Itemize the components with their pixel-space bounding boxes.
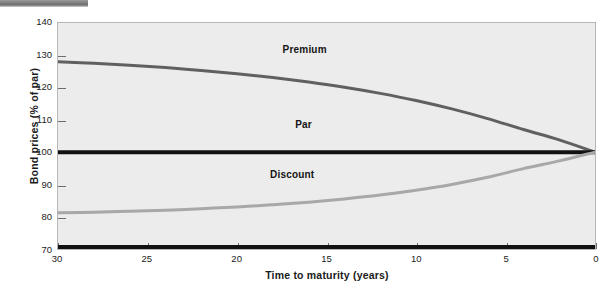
y-tick-label: 110 (26, 114, 52, 125)
y-tick-label: 100 (26, 146, 52, 157)
series-line-discount (58, 152, 595, 213)
x-axis-title: Time to maturity (years) (57, 269, 597, 281)
y-tick-label: 140 (26, 16, 52, 27)
x-tick-label: 15 (312, 253, 342, 264)
header-rule (0, 0, 88, 7)
x-tick-mark (596, 243, 597, 249)
y-tick-label: 80 (26, 211, 52, 222)
bond-price-chart-figure: Bond prices (% of par) Time to maturity … (0, 0, 607, 289)
curve-label-premium: Premium (283, 44, 327, 55)
y-tick-label: 130 (26, 49, 52, 60)
y-tick-label: 90 (26, 179, 52, 190)
y-axis-title: Bond prices (% of par) (28, 6, 40, 246)
x-tick-label: 20 (222, 253, 252, 264)
plot-area: PremiumParDiscount (57, 22, 596, 250)
x-tick-label: 25 (132, 253, 162, 264)
series-lines (58, 23, 595, 249)
y-tick-label: 120 (26, 81, 52, 92)
x-tick-label: 0 (581, 253, 607, 264)
curve-label-par: Par (295, 119, 312, 130)
x-tick-label: 5 (491, 253, 521, 264)
series-line-premium (58, 62, 595, 152)
x-tick-label: 30 (42, 253, 72, 264)
curve-label-discount: Discount (270, 169, 314, 180)
x-tick-label: 10 (401, 253, 431, 264)
